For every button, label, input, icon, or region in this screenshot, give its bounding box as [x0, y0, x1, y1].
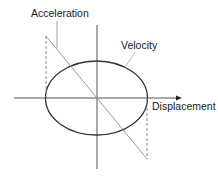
- diagram-canvas: Acceleration Velocity Displacement: [0, 0, 218, 176]
- acceleration-label: Acceleration: [31, 7, 89, 19]
- velocity-label: Velocity: [121, 39, 158, 51]
- displacement-label: Displacement: [152, 100, 216, 112]
- velocity-leader-line: [126, 52, 135, 66]
